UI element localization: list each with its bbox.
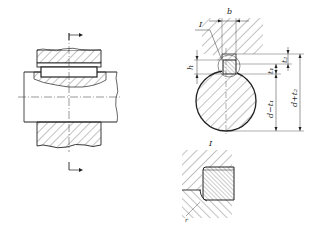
- label-b: b: [227, 7, 232, 16]
- label-t1: t₁: [266, 68, 275, 74]
- cross-section-view: b I h t₂ t₁ d−t₁ d+t₂: [186, 7, 304, 135]
- detail-view-I: I r: [182, 139, 234, 223]
- label-d-minus-t1: d−t₁: [266, 100, 275, 118]
- label-detail-view-I: I: [208, 139, 213, 148]
- label-d-plus-t2: d+t₂: [290, 89, 299, 107]
- label-t2: t₂: [280, 57, 289, 63]
- longitudinal-section-view: [18, 33, 121, 172]
- keyway-drawing: b I h t₂ t₁ d−t₁ d+t₂: [0, 0, 313, 231]
- label-h: h: [186, 65, 195, 70]
